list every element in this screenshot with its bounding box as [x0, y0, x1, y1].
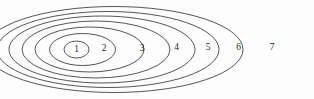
ellipse-shell-6	[0, 12, 219, 88]
ellipse-label-1: 1	[74, 44, 79, 54]
ellipse-label-2: 2	[102, 43, 107, 53]
ellipse-label-5: 5	[206, 42, 211, 52]
ellipse-shell-4	[22, 21, 170, 78]
ellipse-label-7: 7	[270, 42, 275, 52]
ellipse-label-6: 6	[236, 42, 241, 52]
ellipse-label-3: 3	[140, 43, 145, 53]
nested-ellipses-diagram: 1 2 3 4 5 6 7	[0, 0, 314, 99]
ellipse-label-4: 4	[174, 42, 179, 52]
ellipse-canvas: 1 2 3 4 5 6 7	[0, 0, 314, 99]
